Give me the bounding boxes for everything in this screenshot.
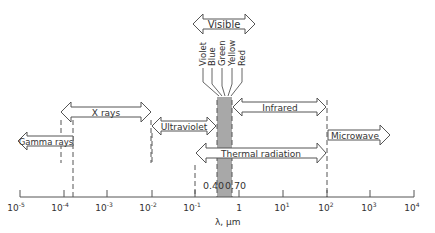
tick-label: 10-5 bbox=[7, 201, 25, 213]
tick-label: 10-4 bbox=[51, 201, 69, 213]
color-leader-lines bbox=[203, 68, 242, 96]
axis-tick-labels: 10-5 10-4 10-3 10-2 10-1 1 101 102 103 1… bbox=[7, 201, 420, 213]
ultraviolet-label: Ultraviolet bbox=[161, 122, 208, 132]
color-label-green: Green bbox=[217, 40, 227, 66]
tick-label: 10-3 bbox=[95, 201, 113, 213]
tick-label: 10-1 bbox=[183, 201, 201, 213]
infrared-label: Infrared bbox=[262, 103, 298, 113]
gamma-rays-label: Gamma rays bbox=[19, 137, 74, 147]
color-label-yellow: Yellow bbox=[227, 40, 237, 67]
color-label-blue: Blue bbox=[207, 47, 217, 66]
tick-label: 103 bbox=[361, 201, 376, 213]
visible-upper-label: 0.70 bbox=[225, 180, 246, 191]
tick-label: 101 bbox=[274, 201, 289, 213]
em-spectrum-diagram: Visible X rays Ultraviolet Gamma rays In… bbox=[0, 0, 435, 233]
thermal-radiation-label: Thermal radiation bbox=[220, 149, 301, 159]
tick-label: 102 bbox=[318, 201, 333, 213]
tick-label: 104 bbox=[404, 201, 419, 213]
color-label-red: Red bbox=[237, 50, 247, 66]
xrays-label: X rays bbox=[92, 108, 121, 118]
tick-label: 10-2 bbox=[139, 201, 157, 213]
visible-label: Visible bbox=[208, 19, 241, 30]
tick-label: 1 bbox=[236, 203, 242, 213]
axis-label: λ, μm bbox=[215, 217, 241, 227]
microwave-label: Microwave bbox=[331, 131, 379, 141]
visible-lower-label: 0.40 bbox=[203, 180, 224, 191]
